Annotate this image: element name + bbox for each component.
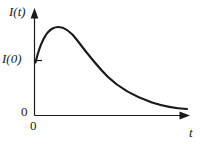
y-axis bbox=[31, 8, 39, 116]
y-axis-label: I(t) bbox=[9, 5, 26, 18]
origin-label-y: 0 bbox=[21, 105, 28, 118]
x-axis bbox=[35, 112, 191, 120]
figure-container: I(t) I(0) t 0 0 bbox=[0, 0, 203, 144]
y-axis-arrowhead bbox=[31, 8, 39, 19]
curve-I-of-t bbox=[36, 27, 188, 109]
x-axis-arrowhead bbox=[180, 112, 191, 120]
origin-label-x: 0 bbox=[30, 119, 37, 132]
x-axis-label: t bbox=[189, 126, 193, 139]
y-intercept-label: I(0) bbox=[2, 52, 22, 65]
